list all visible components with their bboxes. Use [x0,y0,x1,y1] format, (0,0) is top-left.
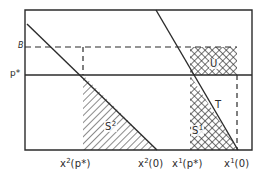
x-axis-label-x1-pstar: x1(p*) [172,158,203,169]
x-axis-label-x2-pstar: x2(p*) [60,158,91,169]
y-axis-label-p-star: p* [10,69,20,78]
economics-diagram: B p* x2(p*) x2(0) x1(p*) x1(0) S2 S1 T U [0,0,271,186]
s2-sup: 2 [112,120,116,128]
x-axis-label-x2-zero: x2(0) [138,158,163,169]
region-label-s1: S1 [191,125,204,136]
x2-zero-arg: (0) [149,158,164,169]
x1-pstar-arg: (p*) [183,158,203,169]
region-label-s2: S2 [104,121,117,132]
x2-pstar-arg: (p*) [71,158,91,169]
y-axis-label-b: B [18,42,24,50]
s1-sup: 1 [199,124,203,132]
region-label-t: T [215,100,221,110]
s1-base: S [192,125,199,136]
x1-zero-arg: (0) [235,158,250,169]
s2-base: S [105,121,112,132]
x-axis-label-x1-zero: x1(0) [224,158,249,169]
region-label-u: U [209,59,219,69]
